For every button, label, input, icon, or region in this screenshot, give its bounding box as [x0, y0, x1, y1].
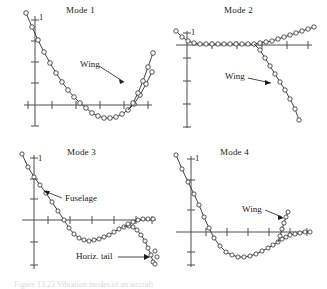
panel-mode-3: Mode 3 1 Fuselage Horiz. tail	[14, 147, 169, 282]
figure-caption: Figure 13.23 Vibration modes of an aircr…	[14, 280, 314, 289]
panel-title-mode-1: Mode 1	[66, 5, 95, 15]
leader-wing-mode-2	[248, 78, 271, 85]
curve-fuselage-mode-3	[22, 154, 153, 262]
panel-mode-1: Mode 1 1 Wing	[14, 4, 164, 140]
plot-mode-4	[168, 147, 323, 282]
markers-fuselage-mode-3	[20, 152, 155, 264]
curve-wing-mode-2	[254, 44, 299, 120]
y-axis-unit-label-mode-1: 1	[39, 12, 43, 22]
plot-mode-3	[14, 147, 169, 282]
y-axis-unit-label-mode-2: 1	[191, 27, 195, 37]
leader-wing-mode-4	[265, 210, 284, 220]
panel-title-mode-4: Mode 4	[220, 147, 249, 157]
markers-wing-mode-1	[131, 51, 156, 106]
curve-label-horiz-tail-mode-3: Horiz. tail	[76, 251, 113, 261]
leader-wing-mode-1	[99, 66, 124, 84]
leader-horiz-tail-mode-3	[118, 254, 150, 260]
y-axis-unit-label-mode-3: 1	[38, 153, 42, 163]
curve-label-wing-mode-4: Wing	[242, 204, 262, 214]
figure-root: Mode 1 1 Wing	[0, 0, 327, 289]
curve-label-wing-mode-1: Wing	[80, 59, 100, 69]
markers-wing-mode-2	[258, 48, 301, 122]
panel-mode-4: Mode 4 1 Wing	[168, 147, 323, 282]
markers-horiz-tail-mode-3	[126, 217, 155, 226]
y-axis-unit-label-mode-4: 1	[195, 153, 199, 163]
plot-mode-1	[14, 4, 164, 140]
plot-mode-2	[168, 4, 323, 140]
curve-fuselage-mode-2	[176, 27, 314, 44]
markers-tail-tip-mode-3	[153, 249, 159, 266]
panel-title-mode-2: Mode 2	[224, 5, 253, 15]
curve-label-fuselage-mode-3: Fuselage	[65, 193, 97, 203]
curve-label-wing-mode-2: Wing	[225, 71, 245, 81]
panel-title-mode-3: Mode 3	[67, 147, 96, 157]
panel-mode-2: Mode 2 1 Wing	[168, 4, 323, 140]
